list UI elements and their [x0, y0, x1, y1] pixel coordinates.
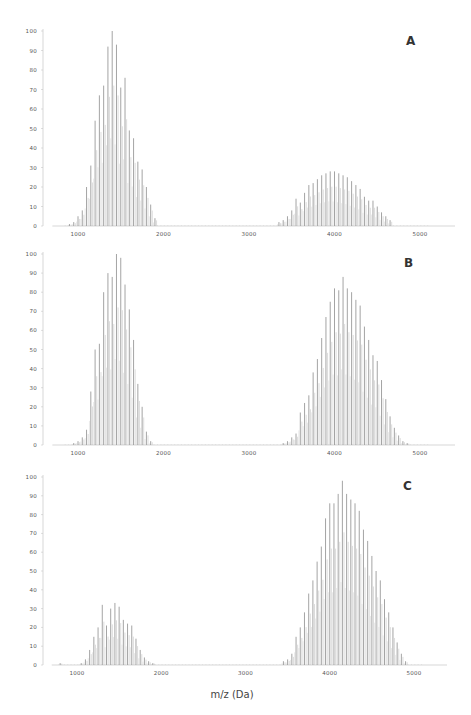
y-tick-label: 100 — [26, 251, 38, 257]
y-tick-label: 50 — [29, 568, 37, 574]
y-tick-label: 60 — [29, 106, 37, 112]
x-tick-label: 1000 — [69, 670, 84, 676]
panel-c: 0102030405060708090100100020003000400050… — [26, 474, 447, 676]
y-tick-label: 20 — [29, 184, 37, 190]
y-tick-label: 0 — [33, 442, 37, 448]
y-tick-label: 100 — [26, 28, 38, 34]
mass-spectra-figure: 0102030405060708090100100020003000400050… — [0, 0, 471, 715]
x-tick-label: 2000 — [154, 670, 169, 676]
y-tick-label: 70 — [29, 87, 37, 93]
panel-a: 0102030405060708090100100020003000400050… — [26, 28, 455, 237]
y-tick-label: 40 — [29, 366, 37, 372]
x-tick-label: 3000 — [241, 450, 256, 456]
y-tick-label: 10 — [29, 204, 37, 210]
y-tick-label: 10 — [29, 423, 37, 429]
y-tick-label: 50 — [29, 347, 37, 353]
y-tick-label: 90 — [29, 270, 37, 276]
x-tick-label: 1000 — [70, 450, 85, 456]
x-tick-label: 3000 — [238, 670, 253, 676]
x-tick-label: 2000 — [156, 450, 171, 456]
x-tick-label: 5000 — [412, 231, 427, 237]
y-tick-label: 40 — [29, 587, 37, 593]
x-axis-title: m/z (Da) — [210, 689, 253, 700]
x-tick-label: 4000 — [327, 450, 342, 456]
y-tick-label: 90 — [29, 48, 37, 54]
panel-label: A — [406, 34, 416, 48]
x-tick-label: 5000 — [412, 450, 427, 456]
x-tick-label: 2000 — [156, 231, 171, 237]
y-tick-label: 40 — [29, 145, 37, 151]
y-tick-label: 80 — [29, 512, 37, 518]
y-tick-label: 0 — [33, 662, 37, 668]
y-tick-label: 90 — [29, 493, 37, 499]
y-tick-label: 50 — [29, 126, 37, 132]
y-tick-label: 80 — [29, 289, 37, 295]
y-tick-label: 70 — [29, 530, 37, 536]
x-tick-label: 3000 — [241, 231, 256, 237]
x-tick-label: 4000 — [322, 670, 337, 676]
y-tick-label: 0 — [33, 223, 37, 229]
panel-label: B — [404, 256, 413, 270]
y-tick-label: 60 — [29, 327, 37, 333]
y-tick-label: 100 — [26, 474, 38, 480]
y-tick-label: 30 — [29, 385, 37, 391]
y-tick-label: 60 — [29, 549, 37, 555]
x-tick-label: 5000 — [406, 670, 421, 676]
x-tick-label: 1000 — [70, 231, 85, 237]
y-tick-label: 20 — [29, 624, 37, 630]
panel-label: C — [403, 479, 412, 493]
y-tick-label: 20 — [29, 404, 37, 410]
y-tick-label: 10 — [29, 643, 37, 649]
y-tick-label: 80 — [29, 67, 37, 73]
y-tick-label: 30 — [29, 165, 37, 171]
y-tick-label: 30 — [29, 606, 37, 612]
panel-b: 0102030405060708090100100020003000400050… — [26, 251, 455, 456]
x-tick-label: 4000 — [327, 231, 342, 237]
y-tick-label: 70 — [29, 308, 37, 314]
